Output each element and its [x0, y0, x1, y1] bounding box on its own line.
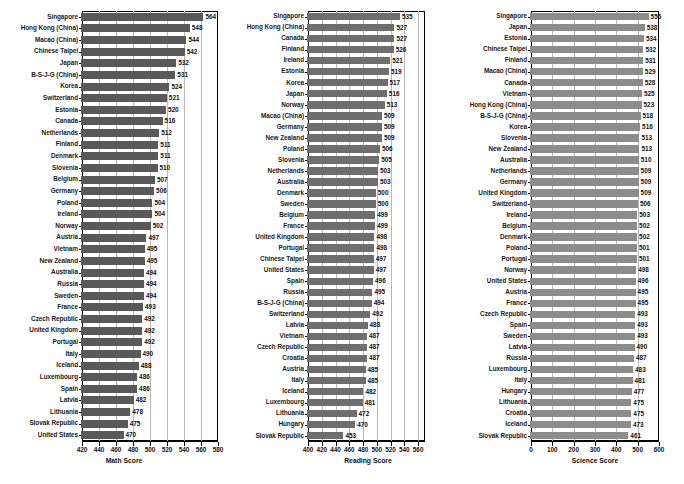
- bar[interactable]: [307, 410, 357, 418]
- bar[interactable]: [81, 210, 152, 218]
- bar[interactable]: [81, 257, 145, 265]
- bar[interactable]: [307, 134, 382, 142]
- bar[interactable]: [307, 24, 394, 32]
- bar[interactable]: [307, 13, 400, 21]
- bar[interactable]: [307, 289, 372, 297]
- bar[interactable]: [530, 344, 635, 352]
- bar[interactable]: [307, 222, 375, 230]
- bar[interactable]: [307, 355, 367, 363]
- bar[interactable]: [81, 59, 176, 67]
- bar[interactable]: [530, 222, 637, 230]
- bar[interactable]: [307, 101, 385, 109]
- bar[interactable]: [530, 410, 631, 418]
- bar[interactable]: [81, 117, 163, 125]
- bar[interactable]: [530, 266, 636, 274]
- bar[interactable]: [81, 234, 146, 242]
- bar[interactable]: [530, 134, 639, 142]
- bar[interactable]: [81, 385, 137, 393]
- bar[interactable]: [81, 24, 190, 32]
- bar[interactable]: [530, 200, 638, 208]
- bar[interactable]: [307, 333, 367, 341]
- bar[interactable]: [307, 233, 374, 241]
- bar[interactable]: [81, 106, 166, 114]
- bar[interactable]: [307, 388, 363, 396]
- bar[interactable]: [530, 46, 643, 54]
- bar[interactable]: [530, 13, 649, 21]
- bar[interactable]: [530, 366, 633, 374]
- bar[interactable]: [307, 189, 376, 197]
- bar[interactable]: [307, 178, 378, 186]
- bar[interactable]: [307, 377, 366, 385]
- bar[interactable]: [530, 377, 633, 385]
- bar[interactable]: [81, 141, 158, 149]
- bar[interactable]: [81, 199, 152, 207]
- bar[interactable]: [530, 123, 640, 131]
- bar[interactable]: [530, 399, 631, 407]
- bar[interactable]: [530, 101, 642, 109]
- bar[interactable]: [530, 355, 634, 363]
- bar[interactable]: [530, 90, 642, 98]
- bar[interactable]: [307, 255, 374, 263]
- bar[interactable]: [307, 399, 363, 407]
- bar[interactable]: [81, 187, 154, 195]
- bar[interactable]: [307, 200, 376, 208]
- bar[interactable]: [530, 178, 639, 186]
- bar[interactable]: [307, 322, 368, 330]
- bar[interactable]: [81, 315, 142, 323]
- bar[interactable]: [81, 245, 145, 253]
- bar[interactable]: [307, 300, 372, 308]
- bar[interactable]: [81, 164, 158, 172]
- bar[interactable]: [530, 24, 645, 32]
- bar[interactable]: [81, 48, 185, 56]
- bar[interactable]: [530, 68, 643, 76]
- bar[interactable]: [81, 222, 151, 230]
- bar[interactable]: [530, 79, 643, 87]
- bar[interactable]: [530, 278, 636, 286]
- bar[interactable]: [81, 327, 142, 335]
- bar[interactable]: [307, 432, 343, 440]
- bar[interactable]: [307, 311, 370, 319]
- bar[interactable]: [81, 420, 128, 428]
- bar[interactable]: [530, 432, 628, 440]
- bar[interactable]: [81, 338, 142, 346]
- bar[interactable]: [530, 311, 635, 319]
- bar[interactable]: [307, 57, 390, 65]
- bar[interactable]: [307, 244, 374, 252]
- bar[interactable]: [530, 322, 635, 330]
- bar[interactable]: [81, 303, 143, 311]
- bar[interactable]: [530, 112, 641, 120]
- bar[interactable]: [81, 408, 130, 416]
- bar[interactable]: [530, 145, 639, 153]
- bar[interactable]: [81, 431, 124, 439]
- bar[interactable]: [530, 421, 631, 429]
- bar[interactable]: [307, 46, 394, 54]
- bar[interactable]: [307, 266, 374, 274]
- bar[interactable]: [530, 211, 637, 219]
- bar[interactable]: [530, 156, 639, 164]
- bar[interactable]: [307, 167, 378, 175]
- bar[interactable]: [530, 57, 643, 65]
- bar[interactable]: [307, 156, 379, 164]
- bar[interactable]: [81, 13, 203, 21]
- bar[interactable]: [530, 189, 639, 197]
- bar[interactable]: [307, 211, 375, 219]
- bar[interactable]: [530, 233, 637, 241]
- bar[interactable]: [81, 350, 141, 358]
- bar[interactable]: [81, 94, 167, 102]
- bar[interactable]: [530, 167, 639, 175]
- bar[interactable]: [307, 35, 394, 43]
- bar[interactable]: [307, 145, 380, 153]
- bar[interactable]: [307, 112, 382, 120]
- bar[interactable]: [307, 278, 373, 286]
- bar[interactable]: [81, 292, 144, 300]
- bar[interactable]: [530, 333, 635, 341]
- bar[interactable]: [81, 396, 134, 404]
- bar[interactable]: [81, 373, 137, 381]
- bar[interactable]: [307, 366, 366, 374]
- bar[interactable]: [81, 152, 158, 160]
- bar[interactable]: [81, 280, 144, 288]
- bar[interactable]: [81, 83, 169, 91]
- bar[interactable]: [530, 300, 636, 308]
- bar[interactable]: [307, 90, 387, 98]
- bar[interactable]: [81, 362, 139, 370]
